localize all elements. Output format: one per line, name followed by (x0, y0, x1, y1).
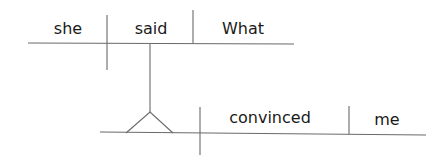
main-baseline (28, 43, 294, 44)
clause-object-word: me (374, 112, 399, 128)
clause-baseline (100, 132, 426, 135)
clause-verb-word: convinced (229, 110, 311, 126)
main-verb-word: said (135, 21, 168, 37)
main-subject-word: she (54, 21, 82, 37)
main-object-word: What (222, 21, 264, 37)
pedestal-triangle (126, 112, 173, 133)
